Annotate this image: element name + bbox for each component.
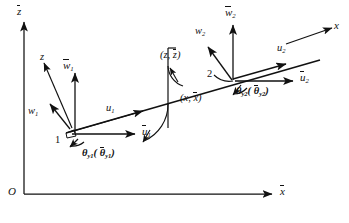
node-1-global-axial-label: u1 — [142, 126, 151, 139]
node-1-global-transverse-label: w1 — [63, 60, 74, 73]
node-2-number-label: 2 — [207, 69, 212, 80]
node-1-rotation-label: θy1( θy1) — [82, 148, 115, 159]
node-1-local-axial-label: u1 — [106, 103, 115, 114]
figure-canvas: z x O x (z, z) (x, x) z w1 w1 u1 u1 1 θy… — [0, 0, 349, 223]
node-1-number-label: 1 — [55, 135, 60, 146]
node-1-local-z-axis — [44, 63, 72, 128]
node-2-global-transverse-label: w2 — [225, 7, 236, 20]
node-2-local-transverse-label: w2 — [195, 26, 205, 37]
angle-pair-x-label: (x, x) — [180, 93, 202, 104]
node-2-local-axial-label: u2 — [277, 43, 286, 54]
origin-label: O — [8, 186, 16, 197]
node-2-rotation-label: θy2( θy2) — [236, 86, 269, 97]
global-x-axis-label: x — [280, 186, 285, 197]
local-x-axis — [286, 28, 332, 44]
angle-pair-z-label: (z, z) — [160, 50, 180, 61]
global-z-axis-label: z — [17, 6, 21, 17]
node-1-local-transverse-label: w1 — [28, 106, 38, 117]
local-x-axis-label: x — [334, 20, 339, 31]
node-1-local-z-label: z — [40, 52, 44, 63]
diagram-vector-graphics — [0, 0, 349, 223]
node-2-global-axial-label: u2 — [300, 72, 309, 85]
